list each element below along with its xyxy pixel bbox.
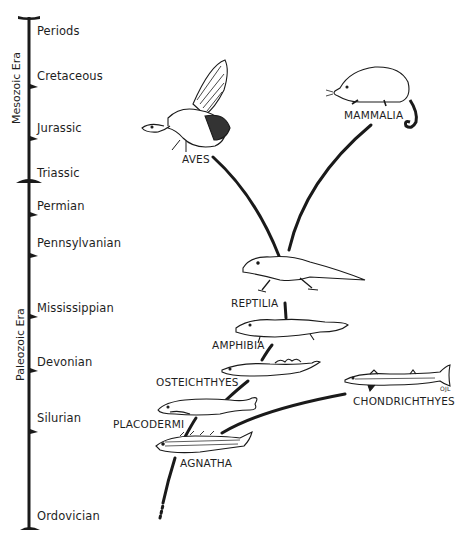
period-cretaceous: Cretaceous (37, 69, 103, 83)
period-ordovician: Ordovician (37, 509, 100, 523)
period-devonian: Devonian (37, 355, 92, 369)
taxon-label-amphibia: AMPHIBIA (212, 339, 265, 351)
reptilia-reptile-icon (243, 257, 365, 292)
period-triassic: Triassic (37, 166, 80, 180)
placodermi-fish-icon (158, 398, 257, 415)
period-permian: Permian (37, 199, 85, 213)
chondrichthyes-shark-icon (345, 365, 450, 391)
evolution-timeline-diagram: Periods Cretaceous Jurassic Triassic Per… (0, 0, 462, 537)
period-mississippian: Mississippian (37, 301, 114, 315)
taxon-label-reptilia: REPTILIA (231, 297, 279, 309)
taxon-label-agnatha: AGNATHA (180, 457, 232, 469)
taxon-label-placodermi: PLACODERMI (113, 418, 184, 430)
taxon-label-aves: AVES (182, 153, 210, 165)
artist-signature: OJL (440, 385, 450, 392)
era-paleozoic: Paleozoic Era (14, 308, 27, 381)
period-jurassic: Jurassic (37, 121, 82, 135)
taxon-label-osteichthyes: OSTEICHTHYES (156, 376, 239, 388)
taxon-label-mammalia: MAMMALIA (344, 109, 403, 121)
aves-bird-icon (142, 60, 230, 152)
era-mesozoic: Mesozoic Era (10, 52, 23, 124)
taxon-label-chondrichthyes: CHONDRICHTHYES (353, 395, 455, 407)
agnatha-fish-icon (156, 431, 252, 453)
osteichthyes-fish-icon (222, 359, 320, 376)
periods-header: Periods (37, 24, 80, 38)
period-pennsylvanian: Pennsylvanian (37, 236, 121, 250)
period-silurian: Silurian (37, 411, 81, 425)
